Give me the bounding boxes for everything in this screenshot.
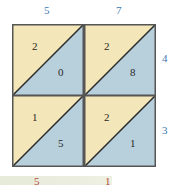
lattice-grid: 2 0 2 8 1 5 2 1 (12, 24, 156, 167)
cell-lower-digit: 8 (130, 66, 136, 78)
result-digit-2: 1 (105, 175, 111, 187)
top-label-1: 5 (44, 4, 50, 16)
cell-upper-digit: 2 (104, 40, 110, 52)
cell-lower-digit: 5 (58, 137, 64, 149)
lattice-cell: 2 1 (84, 95, 156, 167)
cell-triangles-icon (12, 95, 84, 167)
lattice-cell: 1 5 (12, 95, 84, 167)
right-label-2: 3 (162, 124, 168, 136)
lattice-cell: 2 0 (12, 24, 84, 96)
lattice-cell: 2 8 (84, 24, 156, 96)
top-label-2: 7 (116, 4, 122, 16)
result-digit-1: 5 (34, 175, 40, 187)
cell-lower-digit: 0 (58, 66, 64, 78)
cell-triangles-icon (12, 24, 84, 96)
right-label-1: 4 (162, 52, 168, 64)
cell-triangles-icon (84, 95, 156, 167)
cell-upper-digit: 2 (32, 40, 38, 52)
cell-upper-digit: 2 (104, 111, 110, 123)
cell-triangles-icon (84, 24, 156, 96)
result-band (0, 176, 112, 185)
cell-lower-digit: 1 (130, 137, 136, 149)
cell-upper-digit: 1 (32, 111, 38, 123)
